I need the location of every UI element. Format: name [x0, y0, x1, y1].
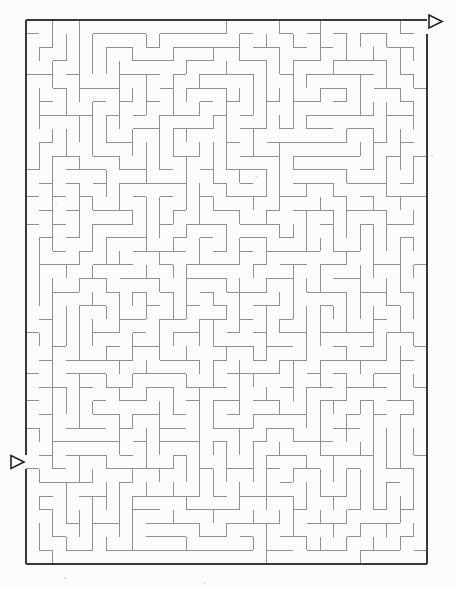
noise-speck — [55, 202, 57, 204]
worksheet-page — [0, 0, 455, 589]
noise-speck — [256, 176, 258, 178]
noise-speck — [431, 155, 433, 157]
noise-speck — [64, 577, 66, 579]
maze-puzzle — [0, 0, 455, 589]
noise-speck — [204, 582, 206, 584]
